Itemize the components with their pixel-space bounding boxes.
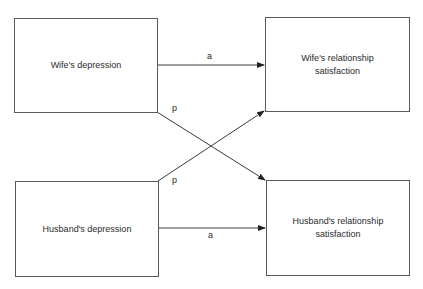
- node-husband-depression: Husband's depression: [15, 181, 159, 277]
- node-husband-satisfaction: Husband's relationship satisfaction: [266, 180, 410, 276]
- edge-label-wife-partner: p: [172, 103, 177, 113]
- node-wife-depression: Wife's depression: [14, 18, 158, 113]
- node-label: Husband's depression: [43, 223, 132, 236]
- edge-label-wife-actor: a: [207, 51, 212, 61]
- edge-label-husband-partner: p: [172, 175, 177, 185]
- node-label: Wife's depression: [51, 59, 122, 72]
- node-label: Husband's relationship satisfaction: [287, 215, 389, 241]
- edge-husband-partner: [158, 111, 264, 181]
- edge-label-husband-actor: a: [208, 230, 213, 240]
- node-wife-satisfaction: Wife's relationship satisfaction: [265, 17, 410, 112]
- node-label: Wife's relationship satisfaction: [296, 52, 379, 78]
